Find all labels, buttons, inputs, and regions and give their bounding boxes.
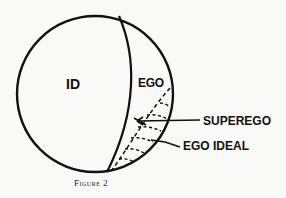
id-label: ID bbox=[66, 76, 80, 92]
ego-ideal-label: EGO IDEAL bbox=[183, 139, 249, 153]
superego-label: SUPEREGO bbox=[203, 114, 271, 128]
psyche-circle bbox=[17, 16, 173, 172]
psyche-diagram bbox=[0, 0, 286, 198]
figure-caption: Figure 2 bbox=[74, 178, 108, 188]
ego-label: EGO bbox=[138, 76, 164, 90]
